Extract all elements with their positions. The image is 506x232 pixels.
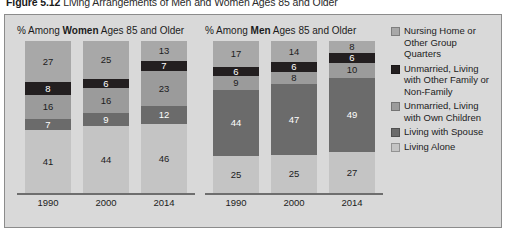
legend-label: Living Alone (404, 141, 455, 153)
legend-item: Unmarried, Living with Other Family or N… (391, 63, 495, 98)
year-label: 2000 (83, 197, 129, 208)
bar-segment-value: 41 (43, 157, 54, 167)
legend-label: Unmarried, Living with Own Children (404, 100, 495, 123)
panel-women-heading-suffix: Ages 85 and Older (99, 25, 185, 36)
panel-women-heading-prefix: % Among (17, 25, 63, 36)
bar-segment: 7 (25, 119, 71, 130)
year-labels-women: 1990 2000 2014 (17, 196, 195, 212)
bar-segment-value: 27 (347, 168, 358, 178)
panel-men: % Among Men Ages 85 and Older 1769442514… (201, 15, 386, 227)
legend-item: Living Alone (391, 141, 495, 153)
bar-segment-value: 49 (347, 110, 358, 120)
bar-segment: 47 (271, 84, 317, 155)
year-label: 2014 (141, 197, 187, 208)
bar-segment: 13 (141, 41, 187, 61)
legend-label: Living with Spouse (404, 126, 483, 138)
panel-women-heading: % Among Women Ages 85 and Older (17, 25, 184, 36)
bar-segment: 25 (271, 155, 317, 193)
bar-segment: 6 (271, 62, 317, 72)
panel-women-heading-bold: Women (63, 25, 99, 36)
legend-swatch (391, 65, 400, 74)
bar-segment-value: 44 (231, 118, 242, 128)
panel-men-heading-prefix: % Among (205, 25, 251, 36)
bar-segment-value: 8 (45, 84, 50, 94)
bar-segment: 23 (141, 71, 187, 106)
plot-men: 176944251468472586104927 (205, 41, 383, 193)
bar-segment: 9 (213, 76, 259, 90)
bar-group: 14684725 (271, 41, 317, 193)
legend-swatch (391, 102, 400, 111)
bar-segment: 16 (83, 88, 129, 112)
figure-title: Figure 5.12 Living Arrangements of Men a… (6, 0, 338, 8)
year-label: 1990 (25, 197, 71, 208)
bar-segment-value: 6 (291, 62, 296, 72)
bar-segment-value: 44 (101, 155, 112, 165)
bar-segment: 10 (329, 63, 375, 78)
bar-segment: 41 (25, 130, 71, 193)
bar-segment-value: 6 (349, 53, 354, 63)
bar-segment: 8 (25, 82, 71, 94)
legend-swatch (391, 27, 400, 36)
bar-segment: 17 (213, 41, 259, 67)
panel-men-heading-suffix: Ages 85 and Older (271, 25, 357, 36)
bar-segment: 25 (213, 156, 259, 194)
bar-segment-value: 12 (159, 110, 170, 120)
bar-group: 137231246 (141, 41, 187, 193)
legend-item: Nursing Home or Other Group Quarters (391, 25, 495, 60)
bar-segment: 12 (141, 106, 187, 124)
bar-segment-value: 25 (231, 170, 242, 180)
plot-women: 2781674125616944137231246 (17, 41, 195, 193)
bar-segment-value: 13 (159, 46, 170, 56)
bar-segment-value: 7 (45, 120, 50, 130)
bar-segment-value: 10 (347, 65, 358, 75)
bar-segment-value: 9 (233, 78, 238, 88)
bar-segment-value: 27 (43, 57, 54, 67)
bar-segment-value: 6 (233, 67, 238, 77)
legend-label: Unmarried, Living with Other Family or N… (404, 63, 495, 98)
bar-segment: 9 (83, 113, 129, 127)
bar-segment: 14 (271, 41, 317, 62)
year-label: 1990 (213, 197, 259, 208)
bar-segment-value: 16 (101, 96, 112, 106)
bar-segment-value: 47 (289, 115, 300, 125)
legend-swatch (391, 128, 400, 137)
bar-segment-value: 16 (43, 102, 54, 112)
legend-item: Living with Spouse (391, 126, 495, 138)
bar-segment-value: 14 (289, 47, 300, 57)
bar-segment-value: 17 (231, 49, 242, 59)
bar-group: 86104927 (329, 41, 375, 193)
panel-men-heading: % Among Men Ages 85 and Older (205, 25, 356, 36)
figure-number: Figure 5.12 (6, 0, 60, 8)
bar-segment: 27 (25, 41, 71, 82)
bar-segment: 25 (83, 41, 129, 79)
bar-segment-value: 25 (289, 169, 300, 179)
bar-segment: 46 (141, 124, 187, 193)
bar-segment: 8 (271, 72, 317, 84)
bar-segment-value: 7 (161, 61, 166, 71)
bar-segment-value: 8 (349, 42, 354, 52)
panel-women: % Among Women Ages 85 and Older 27816741… (13, 15, 198, 227)
bar-segment: 44 (83, 126, 129, 193)
bar-segment: 49 (329, 78, 375, 152)
bar-segment-value: 6 (103, 79, 108, 89)
year-labels-men: 1990 2000 2014 (205, 196, 383, 212)
year-label: 2014 (329, 197, 375, 208)
bar-segment-value: 23 (159, 84, 170, 94)
legend-item: Unmarried, Living with Own Children (391, 100, 495, 123)
chart-frame: % Among Women Ages 85 and Older 27816741… (4, 14, 502, 228)
bar-group: 27816741 (25, 41, 71, 193)
chart-legend: Nursing Home or Other Group QuartersUnma… (391, 25, 495, 155)
bar-group: 25616944 (83, 41, 129, 193)
axis-line-women (17, 193, 195, 195)
bar-segment: 44 (213, 90, 259, 156)
axis-line-men (205, 193, 383, 195)
bar-segment-value: 25 (101, 55, 112, 65)
bar-segment-value: 8 (291, 73, 296, 83)
bar-segment: 27 (329, 152, 375, 193)
bar-segment-value: 9 (103, 115, 108, 125)
bar-segment: 6 (329, 53, 375, 63)
bar-segment: 6 (213, 67, 259, 77)
legend-label: Nursing Home or Other Group Quarters (404, 25, 495, 60)
bar-segment: 6 (83, 79, 129, 89)
year-label: 2000 (271, 197, 317, 208)
